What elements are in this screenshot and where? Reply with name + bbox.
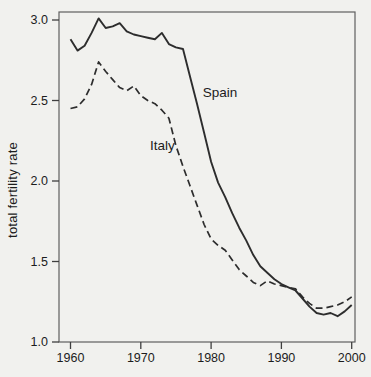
series-label-spain: Spain bbox=[203, 85, 238, 100]
x-tick-label: 1990 bbox=[267, 351, 295, 365]
x-tick-label: 1980 bbox=[197, 351, 225, 365]
x-tick-label: 2000 bbox=[338, 351, 366, 365]
y-tick-label: 3.0 bbox=[31, 13, 48, 27]
plot-border bbox=[59, 12, 355, 342]
series-line-spain bbox=[71, 18, 352, 316]
x-tick-label: 1970 bbox=[127, 351, 155, 365]
y-axis-title: total fertility rate bbox=[5, 142, 20, 238]
x-tick-label: 1960 bbox=[57, 351, 85, 365]
y-tick-label: 2.0 bbox=[31, 174, 48, 188]
y-tick-label: 2.5 bbox=[31, 94, 48, 108]
y-tick-label: 1.5 bbox=[31, 255, 48, 269]
y-tick-label: 1.0 bbox=[31, 335, 48, 349]
chart-canvas: 196019701980199020001.01.52.02.53.0total… bbox=[0, 0, 371, 377]
fertility-rate-figure: 196019701980199020001.01.52.02.53.0total… bbox=[0, 0, 371, 377]
series-label-italy: Italy bbox=[150, 138, 175, 153]
